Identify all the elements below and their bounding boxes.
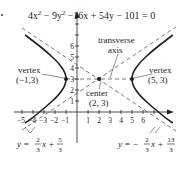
svg-text:3: 3 <box>169 146 173 154</box>
svg-text:3: 3 <box>36 146 40 154</box>
svg-text:x +: x + <box>150 139 163 149</box>
svg-text:2: 2 <box>70 86 74 95</box>
svg-text:3: 3 <box>145 146 149 154</box>
svg-text:y = −: y = − <box>117 139 139 149</box>
svg-text:y =: y = <box>16 139 29 149</box>
svg-text:3: 3 <box>58 146 62 154</box>
svg-text:6: 6 <box>70 42 74 51</box>
svg-text:3: 3 <box>108 116 112 125</box>
svg-text:6: 6 <box>141 116 145 125</box>
svg-text:3: 3 <box>70 75 74 84</box>
vertex-left-title: vertex <box>18 65 41 75</box>
vertex-right-point <box>130 77 134 81</box>
svg-text:1: 1 <box>86 116 90 125</box>
svg-text:x +: x + <box>41 139 54 149</box>
y-axis <box>75 11 80 143</box>
svg-text:2: 2 <box>97 116 101 125</box>
transverse-label: transverse <box>98 35 134 45</box>
svg-text:−2: −2 <box>50 116 58 125</box>
asymptote-equation-right: y = − 2 3 x + 13 3 <box>117 136 175 154</box>
svg-text:5: 5 <box>58 136 62 144</box>
center-point <box>97 77 101 81</box>
vertex-right-coords: (5, 3) <box>148 75 168 85</box>
equation: 4x2 − 9y2 −16x + 54y − 101 = 0 <box>28 9 155 21</box>
hyperbola-diagram: −5 −4 −3 −2 −1 1 2 3 4 5 6 1 2 3 4 5 6 <box>0 0 180 169</box>
svg-text:−5: −5 <box>17 116 25 125</box>
svg-text:13: 13 <box>168 136 176 144</box>
vertex-left-point <box>64 77 68 81</box>
vertex-left-coords: (−1,3) <box>16 75 38 85</box>
svg-text:4: 4 <box>70 64 74 73</box>
svg-text:1: 1 <box>70 97 74 106</box>
axis-label: axis <box>108 45 123 55</box>
y-tick-labels: 1 2 3 4 5 6 <box>70 42 74 106</box>
center-coords: (2, 3) <box>89 98 109 108</box>
svg-text:2: 2 <box>145 136 149 144</box>
bullet-mark <box>1 14 3 16</box>
svg-text:−1: −1 <box>61 116 69 125</box>
vertex-right-title: vertex <box>149 65 172 75</box>
asymptote-equation-left: y = 2 3 x + 5 3 <box>16 136 63 154</box>
svg-text:4: 4 <box>119 116 123 125</box>
svg-text:5: 5 <box>130 116 134 125</box>
center-title: center <box>86 88 108 98</box>
svg-text:2: 2 <box>36 136 40 144</box>
